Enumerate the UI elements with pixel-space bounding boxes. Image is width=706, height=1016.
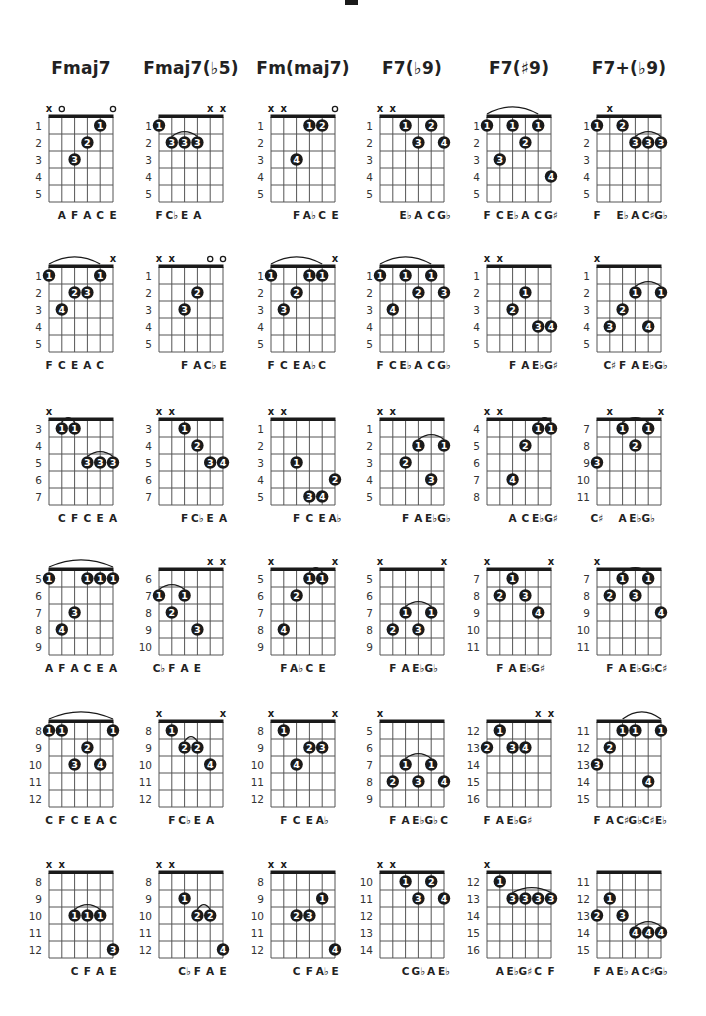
- fret-number: 8: [473, 491, 480, 503]
- finger-dot: 2: [290, 589, 302, 601]
- svg-text:3: 3: [84, 457, 91, 468]
- svg-text:2: 2: [594, 910, 601, 921]
- finger-dot: 1: [178, 892, 190, 904]
- note-label: C: [496, 209, 504, 221]
- note-label: F: [168, 814, 175, 826]
- note-label: C: [522, 512, 530, 524]
- svg-text:3: 3: [415, 624, 422, 635]
- fret-number: 2: [366, 137, 373, 149]
- fret-number: 5: [35, 188, 42, 200]
- finger-dot: 1: [94, 119, 106, 131]
- svg-text:3: 3: [84, 287, 91, 298]
- svg-text:1: 1: [496, 725, 503, 736]
- svg-text:3: 3: [645, 137, 652, 148]
- fret-number: 10: [467, 624, 480, 636]
- note-label: C♭: [178, 814, 191, 826]
- fret-number: 9: [583, 457, 590, 469]
- finger-dot: 3: [316, 741, 328, 753]
- fretboard-grid: 89101112xx1234: [247, 706, 357, 816]
- fret-number: 4: [583, 171, 590, 183]
- note-label: A♭: [290, 662, 303, 674]
- note-label: E♭: [425, 512, 437, 524]
- chord-note-names: FE♭AC♯G♭: [573, 209, 683, 223]
- chord-diagram: 12345x11234C♯FAE♭G♭: [573, 251, 683, 391]
- fret-number: 10: [577, 624, 590, 636]
- muted-string-icon: x: [220, 103, 227, 114]
- note-label: C: [293, 965, 301, 977]
- note-label: A: [402, 814, 410, 826]
- finger-dot: 1: [303, 572, 315, 584]
- note-label: F: [181, 359, 188, 371]
- fret-number: 14: [577, 776, 591, 788]
- note-label: C♭: [191, 512, 204, 524]
- open-string-icon: [332, 106, 337, 111]
- fret-number: 7: [257, 607, 264, 619]
- fret-number: 15: [467, 776, 480, 788]
- svg-text:3: 3: [428, 474, 435, 485]
- note-label: E♭: [507, 209, 519, 221]
- svg-text:1: 1: [306, 270, 313, 281]
- muted-string-icon: x: [484, 253, 491, 264]
- fret-number: 2: [473, 137, 480, 149]
- fret-number: 12: [139, 944, 152, 956]
- fret-number: 4: [473, 423, 480, 435]
- chord-diagram: 56789xx1123FAE♭G♭: [356, 554, 466, 694]
- fretboard-grid: 1112131415123444: [573, 857, 683, 967]
- chord-diagram: 1112131415123444FAE♭AC♯G♭: [573, 857, 683, 997]
- fretboard-grid: 12345xx1123: [356, 404, 466, 514]
- finger-dot: 1: [56, 724, 68, 736]
- svg-text:1: 1: [441, 440, 448, 451]
- fret-number: 11: [139, 927, 152, 939]
- chord-note-names: FAC♯G♭C♯E♭: [573, 814, 683, 828]
- finger-dot: 3: [629, 589, 641, 601]
- svg-text:4: 4: [293, 154, 300, 165]
- note-label: E: [109, 965, 116, 977]
- finger-dot: 4: [217, 943, 229, 955]
- fretboard-grid: 1213141516xx1234: [463, 706, 573, 816]
- svg-text:3: 3: [306, 491, 313, 502]
- finger-dot: 1: [68, 909, 80, 921]
- note-label: A♭: [316, 965, 329, 977]
- svg-text:3: 3: [496, 154, 503, 165]
- column-title-fmaj7: Fmaj7: [26, 58, 136, 78]
- note-label: C♯: [591, 512, 604, 524]
- svg-text:3: 3: [110, 944, 117, 955]
- svg-text:2: 2: [496, 590, 503, 601]
- svg-text:3: 3: [548, 893, 555, 904]
- fret-number: 7: [473, 573, 480, 585]
- chord-diagram: 12345xx124FA♭CE: [247, 101, 357, 241]
- finger-dot: 1: [494, 875, 506, 887]
- svg-text:4: 4: [548, 321, 555, 332]
- svg-text:2: 2: [293, 287, 300, 298]
- chord-diagram: 7891011xx1123C♯AE♭G♭: [573, 404, 683, 544]
- note-label: E: [71, 359, 78, 371]
- note-label: F: [619, 359, 626, 371]
- muted-string-icon: x: [268, 103, 275, 114]
- chord-note-names: AFACEA: [25, 662, 135, 676]
- finger-dot: 2: [412, 286, 424, 298]
- fret-number: 5: [257, 573, 264, 585]
- chord-note-names: FCEA♭: [247, 814, 357, 828]
- note-label: C♭: [165, 209, 178, 221]
- svg-text:3: 3: [522, 590, 529, 601]
- fret-number: 2: [257, 287, 264, 299]
- finger-dot: 1: [107, 572, 119, 584]
- fret-number: 1: [366, 120, 373, 132]
- finger-dot: 3: [532, 320, 544, 332]
- note-label: A: [619, 662, 627, 674]
- fretboard-grid: 12345xx1234: [356, 101, 466, 211]
- note-label: F: [181, 512, 188, 524]
- svg-text:1: 1: [645, 423, 652, 434]
- chord-diagram: 56789111134AFACEA: [25, 554, 135, 694]
- svg-text:1: 1: [632, 725, 639, 736]
- svg-text:3: 3: [535, 893, 542, 904]
- note-label: F: [84, 965, 91, 977]
- fret-number: 5: [35, 457, 42, 469]
- finger-dot: 1: [506, 119, 518, 131]
- svg-text:3: 3: [71, 607, 78, 618]
- finger-dot: 1: [43, 724, 55, 736]
- svg-text:1: 1: [46, 725, 53, 736]
- fret-number: 3: [257, 304, 264, 316]
- finger-dot: 3: [655, 136, 667, 148]
- svg-text:1: 1: [428, 759, 435, 770]
